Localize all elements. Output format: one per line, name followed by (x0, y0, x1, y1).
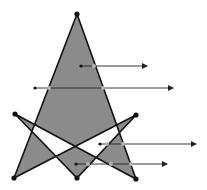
intersection-point (121, 142, 125, 146)
ray-origin-point (79, 64, 82, 67)
ray-origin-point (74, 162, 77, 165)
intersection-point (47, 86, 51, 90)
intersection-point (86, 162, 90, 166)
ray-origin-point (98, 142, 101, 145)
intersection-point (105, 142, 109, 146)
intersection-point (129, 162, 133, 166)
vertex-right-arm (133, 112, 138, 117)
intersection-point (101, 86, 105, 90)
vertex-top-apex (74, 11, 79, 16)
ray-casting-diagram (0, 0, 207, 190)
intersection-point (92, 64, 96, 68)
ray-origin-point (33, 86, 36, 89)
vertex-bottom-left (11, 175, 16, 180)
vertex-bottom-right (133, 176, 138, 181)
intersection-point (109, 162, 113, 166)
self-intersecting-polygon (14, 14, 136, 179)
vertex-left-arm (12, 111, 17, 116)
vertex-bottom-mid (74, 175, 79, 180)
